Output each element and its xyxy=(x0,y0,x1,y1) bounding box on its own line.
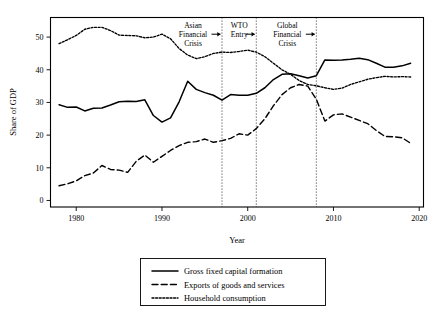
annotation-text: Financial xyxy=(273,30,301,39)
annotation-text: Crisis xyxy=(184,39,202,48)
y-tick-label: 10 xyxy=(36,164,44,173)
x-tick-label: 2000 xyxy=(240,214,256,223)
annotation-text: Asian xyxy=(184,21,202,30)
y-tick-label: 0 xyxy=(40,196,44,205)
legend-label-2: Exports of goods and services xyxy=(184,281,284,290)
y-axis-label: Share of GDP xyxy=(8,88,18,136)
annotation-text: Global xyxy=(277,21,298,30)
chart-figure: 01020304050 19801990200020102020 Share o… xyxy=(0,0,441,319)
y-tick-label: 20 xyxy=(36,131,44,140)
annotation-text: Financial xyxy=(179,30,207,39)
x-tick-label: 2020 xyxy=(411,214,427,223)
x-tick-label: 2010 xyxy=(325,214,341,223)
annotation-text: WTO xyxy=(231,21,249,30)
line-chart: 01020304050 19801990200020102020 Share o… xyxy=(0,0,441,319)
x-axis-label: Year xyxy=(229,235,245,245)
y-tick-label: 50 xyxy=(36,33,44,42)
annotation-text: Entry xyxy=(231,30,248,39)
annotation-text: Crisis xyxy=(278,39,296,48)
y-tick-label: 30 xyxy=(36,98,44,107)
chart-legend: Gross fixed capital formationExports of … xyxy=(141,259,326,306)
y-tick-label: 40 xyxy=(36,66,44,75)
legend-label-3: Household consumption xyxy=(184,294,266,303)
x-tick-label: 1980 xyxy=(68,214,84,223)
legend-label-1: Gross fixed capital formation xyxy=(184,267,283,276)
x-tick-label: 1990 xyxy=(154,214,170,223)
